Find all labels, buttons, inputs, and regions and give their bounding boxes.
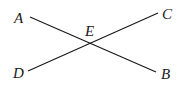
intersecting-lines-diagram: A C E D B: [0, 0, 189, 93]
label-point-e: E: [84, 23, 94, 39]
label-point-a: A: [13, 10, 24, 26]
label-point-b: B: [161, 66, 170, 82]
segment-dc: [28, 13, 158, 71]
label-point-c: C: [162, 6, 173, 22]
label-point-d: D: [12, 65, 24, 81]
